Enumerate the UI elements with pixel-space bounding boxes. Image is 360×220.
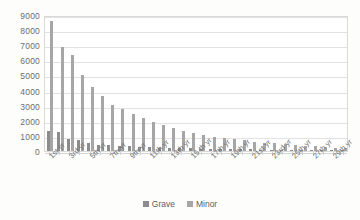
bar-group — [308, 17, 318, 151]
y-axis-tick-label: 6000 — [20, 56, 40, 66]
legend-label: Minor — [196, 199, 217, 209]
bar-group — [329, 17, 339, 151]
y-axis-tick-label: 9000 — [20, 11, 40, 21]
legend-label: Grave — [152, 199, 175, 209]
x-axis-tick — [59, 152, 60, 155]
bar-grave — [47, 131, 50, 151]
x-axis-tick — [221, 152, 222, 155]
x-axis: 1st yr3rd yr5th yr7th yr9th yr11th yr13t… — [44, 154, 348, 194]
bar-group — [339, 17, 349, 151]
bar-grave — [67, 139, 70, 151]
x-axis-tick — [282, 152, 283, 155]
y-axis-tick-label: 1000 — [20, 132, 40, 142]
bar-minor — [91, 87, 94, 151]
bar-group — [278, 17, 288, 151]
x-axis-tick — [140, 152, 141, 155]
bar-group — [45, 17, 55, 151]
bar-group — [258, 17, 268, 151]
bar-group — [187, 17, 197, 151]
y-axis-tick-label: 4000 — [20, 87, 40, 97]
bar-group — [116, 17, 126, 151]
bar-group — [319, 17, 329, 151]
bar-group — [106, 17, 116, 151]
chart-legend: GraveMinor — [0, 199, 360, 209]
legend-swatch-icon — [187, 201, 193, 207]
bar-group — [207, 17, 217, 151]
bar-group — [197, 17, 207, 151]
y-axis-tick-label: 7000 — [20, 41, 40, 51]
bar-minor — [71, 55, 74, 151]
bar-group — [96, 17, 106, 151]
bar-minor — [132, 114, 135, 151]
bar-grave — [87, 143, 90, 151]
bar-minor — [50, 21, 53, 151]
bar-group — [167, 17, 177, 151]
y-axis-tick-label: 0 — [35, 147, 40, 157]
bar-group — [146, 17, 156, 151]
x-axis-tick — [79, 152, 80, 155]
bar-group — [126, 17, 136, 151]
plot-area — [44, 16, 348, 152]
bar-group — [156, 17, 166, 151]
bar-group — [177, 17, 187, 151]
chart-page: 0100020003000400050006000700080009000 1s… — [0, 0, 360, 220]
x-axis-tick — [323, 152, 324, 155]
bar-group — [75, 17, 85, 151]
bar-group — [248, 17, 258, 151]
bar-group — [227, 17, 237, 151]
bar-group — [217, 17, 227, 151]
legend-entry[interactable]: Grave — [143, 199, 175, 209]
bar-group — [298, 17, 308, 151]
y-axis-tick-label: 8000 — [20, 26, 40, 36]
bar-minor — [111, 105, 114, 151]
y-axis-tick-label: 5000 — [20, 71, 40, 81]
x-axis-tick — [201, 152, 202, 155]
legend-swatch-icon — [143, 201, 149, 207]
legend-entry[interactable]: Minor — [187, 199, 217, 209]
bar-group — [238, 17, 248, 151]
bar-group — [268, 17, 278, 151]
bar-group — [55, 17, 65, 151]
bar-group — [136, 17, 146, 151]
x-axis-tick — [343, 152, 344, 155]
x-axis-tick — [262, 152, 263, 155]
x-axis-tick — [100, 152, 101, 155]
x-axis-tick — [120, 152, 121, 155]
bar-group — [86, 17, 96, 151]
bar-minor — [61, 47, 64, 151]
y-axis: 0100020003000400050006000700080009000 — [0, 16, 40, 152]
bar-group — [288, 17, 298, 151]
y-axis-tick-label: 3000 — [20, 102, 40, 112]
bar-group — [65, 17, 75, 151]
x-axis-tick — [242, 152, 243, 155]
x-axis-tick — [181, 152, 182, 155]
bars-layer — [45, 17, 347, 151]
x-axis-tick — [161, 152, 162, 155]
y-axis-tick-label: 2000 — [20, 117, 40, 127]
x-axis-tick — [302, 152, 303, 155]
